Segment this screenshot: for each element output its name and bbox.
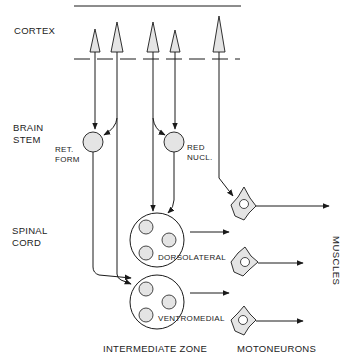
pyramidal-neuron-icon: [111, 22, 123, 52]
label-spinal-cord-2: CORD: [12, 237, 41, 249]
pyramidal-neuron-icon: [170, 30, 180, 52]
rubrospinal-tract: [168, 152, 174, 213]
reticulospinal-tract: [93, 152, 131, 278]
label-ret-form-1: RET.: [55, 145, 74, 155]
pyramidal-neuron-icon: [147, 22, 159, 52]
label-motoneurons: MOTONEURONS: [237, 343, 316, 355]
label-intermediate-zone: INTERMEDIATE ZONE: [103, 343, 207, 355]
red-nucl-nucleus: [164, 132, 184, 152]
label-ventromedial: VENTROMEDIAL: [158, 314, 225, 324]
label-red-nucl-1: RED: [187, 143, 205, 153]
motor-pathways-diagram: [0, 0, 355, 363]
label-dorsolateral: DORSOLATERAL: [158, 253, 226, 263]
collateral-to-ret-form: [104, 118, 117, 135]
motoneuron-icon: [231, 187, 329, 220]
motoneuron-icon: [231, 306, 303, 335]
pyramidal-neuron-icon: [213, 16, 225, 52]
motoneuron-icon: [231, 247, 303, 276]
label-brain-stem-2: STEM: [13, 134, 41, 146]
label-ret-form-2: FORM: [55, 155, 80, 165]
label-spinal-cord-1: SPINAL: [12, 225, 48, 237]
label-brain-stem-1: BRAIN: [13, 122, 44, 134]
label-cortex: CORTEX: [14, 25, 55, 37]
collateral-to-red-nucl: [153, 118, 165, 135]
axon-cortex-to-ventromedial: [117, 52, 131, 284]
axon-cortex-to-motoneuron: [219, 52, 233, 196]
ret-form-nucleus: [83, 132, 103, 152]
label-muscles: MUSCLES: [330, 236, 342, 285]
pyramidal-neuron-icon: [90, 29, 100, 52]
label-red-nucl-2: NUCL.: [187, 153, 213, 163]
